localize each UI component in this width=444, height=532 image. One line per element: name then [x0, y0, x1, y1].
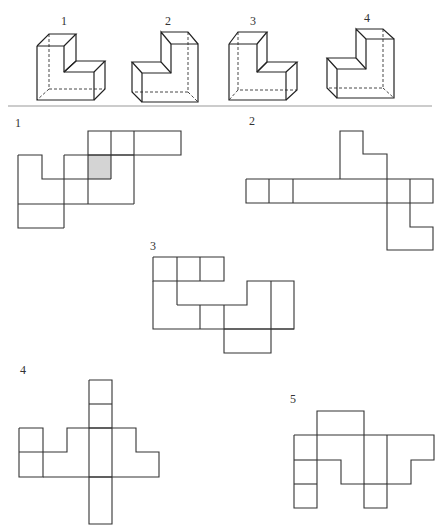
- net-edge: [246, 179, 433, 203]
- solid-figure-3: 3: [229, 14, 297, 100]
- hidden-edge: [383, 88, 394, 98]
- net-label: 2: [249, 114, 255, 128]
- net-edge: [89, 380, 112, 524]
- visible-edge: [356, 29, 366, 69]
- net-figures: 12345: [15, 114, 434, 524]
- solid-label: 3: [250, 14, 256, 28]
- solid-figures: 1234: [37, 11, 394, 102]
- figure-canvas: 1234 12345: [0, 0, 444, 532]
- net-label: 3: [150, 239, 156, 253]
- net-label: 5: [290, 392, 296, 406]
- solid-label: 4: [364, 11, 370, 25]
- visible-edge: [229, 32, 267, 44]
- hidden-edge: [188, 92, 198, 102]
- visible-edge: [257, 62, 297, 72]
- net-edge: [18, 155, 64, 228]
- net-figure-2: 2: [246, 114, 433, 250]
- net-label: 4: [20, 363, 26, 377]
- hidden-edge: [229, 90, 238, 100]
- visible-edge: [37, 46, 94, 100]
- net-figure-5: 5: [290, 392, 434, 508]
- net-edge: [340, 131, 387, 179]
- net-edge: [317, 411, 364, 435]
- net-edge: [18, 155, 88, 179]
- visible-edge: [64, 61, 105, 72]
- net-edge: [153, 257, 224, 281]
- net-figure-3: 3: [150, 239, 294, 353]
- solid-label: 1: [61, 14, 67, 28]
- net-edge: [387, 179, 433, 250]
- shaded-face: [88, 155, 111, 179]
- solid-figure-1: 1: [37, 14, 105, 100]
- solid-figure-4: 4: [327, 11, 394, 98]
- visible-edge: [132, 62, 161, 73]
- net-edge: [177, 281, 294, 329]
- visible-edge: [327, 58, 356, 69]
- net-figure-1: 1: [15, 116, 181, 228]
- net-figure-4: 4: [19, 363, 159, 524]
- visible-edge: [161, 32, 171, 73]
- net-edge: [294, 435, 317, 508]
- solid-figure-2: 2: [132, 14, 198, 102]
- visible-edge: [37, 34, 76, 46]
- net-label: 1: [15, 116, 21, 130]
- hidden-edge: [37, 89, 49, 100]
- solid-label: 2: [165, 14, 171, 28]
